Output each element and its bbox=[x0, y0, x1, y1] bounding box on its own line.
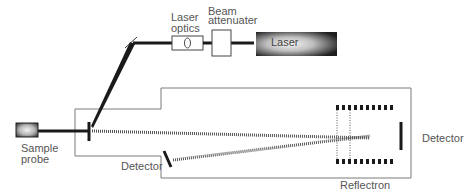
reflectron-bottom-electrodes bbox=[336, 159, 393, 164]
label-detector-reflectron: Detector bbox=[422, 132, 464, 144]
label-detector-linear: Detector bbox=[121, 160, 163, 172]
reflectron-top-electrodes bbox=[336, 105, 393, 110]
label-sample-probe-2: probe bbox=[21, 153, 49, 165]
detector-linear bbox=[164, 151, 171, 167]
sample-probe bbox=[16, 123, 38, 137]
diagram-canvas: Laser optics Beam attenuater Laser Sampl… bbox=[0, 0, 473, 196]
label-beam-attenuater-2: attenuater bbox=[208, 14, 258, 26]
label-reflectron: Reflectron bbox=[340, 179, 390, 191]
reflectron bbox=[336, 105, 393, 164]
ion-beam-outgoing bbox=[92, 131, 370, 138]
beam-attenuater bbox=[212, 30, 231, 56]
label-laser-optics-2: optics bbox=[171, 22, 200, 34]
ion-beam-return bbox=[173, 136, 370, 160]
label-laser: Laser bbox=[271, 36, 299, 48]
laser-optics bbox=[172, 36, 203, 50]
